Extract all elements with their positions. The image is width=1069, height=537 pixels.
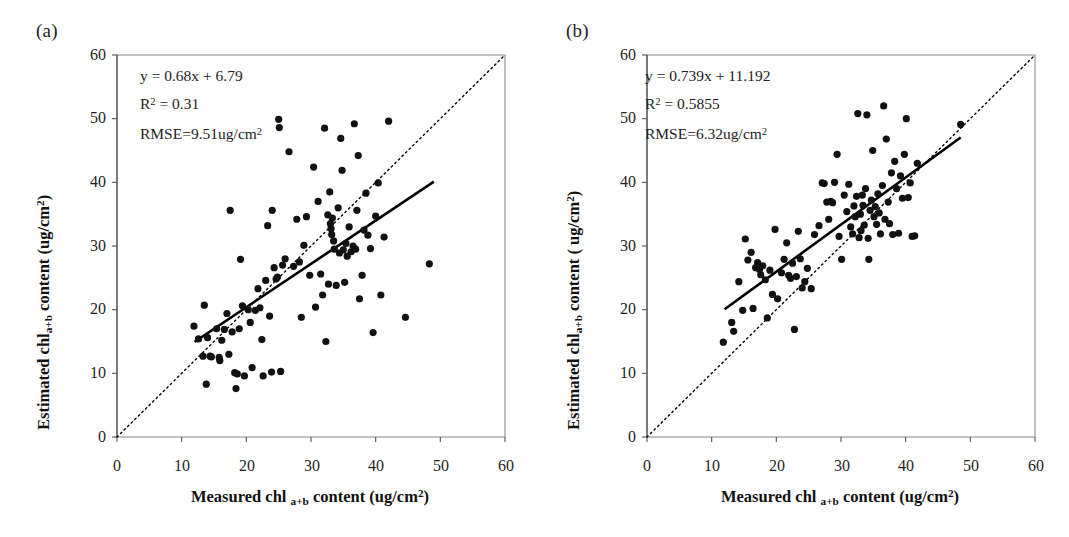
y-axis-title-a: Estimated chla+b content (ug/cm2) xyxy=(34,195,54,430)
data-point xyxy=(266,312,273,319)
data-point xyxy=(728,319,735,326)
data-point xyxy=(258,336,265,343)
data-point xyxy=(780,256,787,263)
data-point xyxy=(329,214,336,221)
data-point xyxy=(195,335,202,342)
y-tick-40-b: 40 xyxy=(586,173,636,191)
data-point xyxy=(911,232,918,239)
r2-value-b: = 0.5855 xyxy=(661,95,720,112)
data-point xyxy=(735,278,742,285)
data-point xyxy=(797,255,804,262)
y-tick-0-b: 0 xyxy=(586,428,636,446)
data-point xyxy=(380,233,387,240)
x-tick-40-b: 40 xyxy=(886,457,926,475)
x-tick-30-b: 30 xyxy=(822,457,862,475)
data-point xyxy=(236,325,243,332)
data-point xyxy=(227,207,234,214)
data-point xyxy=(739,307,746,314)
data-point xyxy=(764,314,771,321)
x-title-part3-a: ) xyxy=(424,487,430,506)
data-point xyxy=(201,302,208,309)
data-point xyxy=(285,148,292,155)
data-point xyxy=(804,265,811,272)
data-point xyxy=(759,262,766,269)
data-point xyxy=(342,240,349,247)
y-title-part3-b: ) xyxy=(564,191,583,197)
data-point xyxy=(845,181,852,188)
data-point xyxy=(377,291,384,298)
x-tick-50-a: 50 xyxy=(421,457,461,475)
data-point xyxy=(256,304,263,311)
y-title-sub-a: a+b xyxy=(42,315,54,333)
data-point xyxy=(829,199,836,206)
data-point xyxy=(208,353,215,360)
data-point xyxy=(245,306,252,313)
data-point xyxy=(762,276,769,283)
y-tick-10-b: 10 xyxy=(586,364,636,382)
x-tick-60-b: 60 xyxy=(1016,457,1056,475)
y-tick-20-a: 20 xyxy=(56,300,106,318)
data-point xyxy=(315,198,322,205)
data-point xyxy=(298,314,305,321)
data-point xyxy=(341,279,348,286)
rmse-annotation-a: RMSE=9.51ug/cm2 xyxy=(140,126,262,142)
data-point xyxy=(221,326,228,333)
data-point xyxy=(854,110,861,117)
regression-line-a xyxy=(195,182,434,342)
data-point xyxy=(879,182,886,189)
panel-b: (b) 60 50 40 30 20 10 0 0 10 20 30 40 50… xyxy=(535,0,1069,537)
data-point xyxy=(282,255,289,262)
data-point xyxy=(199,353,206,360)
data-point xyxy=(241,372,248,379)
data-point xyxy=(306,272,313,279)
data-point xyxy=(326,188,333,195)
x-title-part2-a: content (ug/cm xyxy=(309,487,418,506)
data-point xyxy=(338,167,345,174)
one-to-one-line-a xyxy=(117,55,505,437)
data-point xyxy=(914,160,921,167)
data-point xyxy=(190,323,197,330)
data-point xyxy=(369,329,376,336)
data-point xyxy=(375,179,382,186)
y-tick-60-b: 60 xyxy=(586,46,636,64)
data-point xyxy=(742,235,749,242)
data-point xyxy=(789,260,796,267)
data-point xyxy=(319,291,326,298)
data-point xyxy=(385,118,392,125)
data-point xyxy=(268,368,275,375)
data-point xyxy=(290,263,297,270)
data-point xyxy=(335,204,342,211)
r2-annotation-b: R2 = 0.5855 xyxy=(645,96,720,112)
y-tick-40-a: 40 xyxy=(56,173,106,191)
data-point xyxy=(801,278,808,285)
data-point xyxy=(865,256,872,263)
data-point xyxy=(340,246,347,253)
r2-prefix-a: R xyxy=(140,95,150,112)
x-tick-20-a: 20 xyxy=(227,457,267,475)
data-point xyxy=(808,285,815,292)
data-point xyxy=(296,258,303,265)
data-point xyxy=(337,135,344,142)
data-point xyxy=(346,223,353,230)
one-to-one-line-b xyxy=(647,55,1035,437)
data-point xyxy=(356,295,363,302)
data-point xyxy=(271,264,278,271)
y-tick-50-a: 50 xyxy=(56,109,106,127)
data-point xyxy=(778,269,785,276)
data-point xyxy=(310,163,317,170)
data-point xyxy=(831,179,838,186)
x-tick-50-b: 50 xyxy=(951,457,991,475)
y-tick-30-a: 30 xyxy=(56,237,106,255)
data-point xyxy=(868,197,875,204)
data-point xyxy=(277,368,284,375)
data-point xyxy=(355,152,362,159)
data-point xyxy=(850,202,857,209)
data-point xyxy=(269,207,276,214)
data-point xyxy=(895,230,902,237)
data-point xyxy=(203,381,210,388)
y-title-sub-b: a+b xyxy=(572,315,584,333)
x-title-part1-a: Measured chl xyxy=(191,487,291,506)
data-point xyxy=(877,230,884,237)
data-point xyxy=(825,216,832,223)
equation-annotation-a: y = 0.68x + 6.79 xyxy=(140,68,243,84)
